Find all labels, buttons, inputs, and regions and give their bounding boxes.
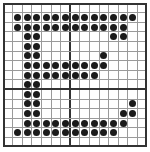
dot-grid-figure	[3, 3, 147, 147]
grid-border	[3, 3, 147, 147]
